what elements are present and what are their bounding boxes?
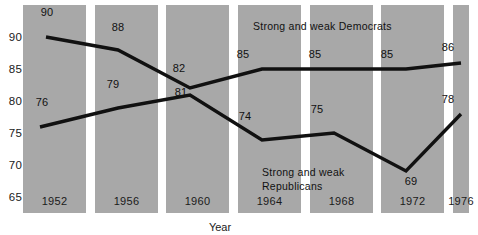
republicans-line [40,95,461,171]
point-label-rep-1952: 76 [31,96,53,108]
point-label-rep-1972: 69 [400,175,422,187]
x-tick-label-1956: 1956 [95,195,158,207]
point-label-rep-1964: 74 [234,110,256,122]
point-label-dem-1968: 85 [304,48,326,60]
x-tick-label-1964: 1964 [238,195,301,207]
annotation-democrats: Strong and weak Democrats [253,20,392,33]
x-tick-label-1972: 1972 [381,195,444,207]
x-axis-title: Year [185,221,255,233]
x-tick-label-1952: 1952 [23,195,86,207]
point-label-rep-1976: 78 [437,93,459,105]
point-label-dem-1972: 85 [376,48,398,60]
point-label-dem-1956: 88 [107,21,129,33]
annotation-republicans-line2: Republicans [262,180,323,193]
point-label-dem-1964: 85 [232,48,254,60]
x-tick-label-1960: 1960 [166,195,229,207]
point-label-rep-1956: 79 [102,78,124,90]
point-label-rep-1968: 75 [306,103,328,115]
x-tick-label-1976: 1976 [441,195,478,207]
point-label-rep-1960: 81 [170,86,192,98]
point-label-dem-1952: 90 [36,6,58,18]
annotation-republicans-line1: Strong and weak [262,166,345,179]
point-label-dem-1976: 86 [437,41,459,53]
point-label-dem-1960: 82 [168,62,190,74]
x-tick-label-1968: 1968 [310,195,373,207]
